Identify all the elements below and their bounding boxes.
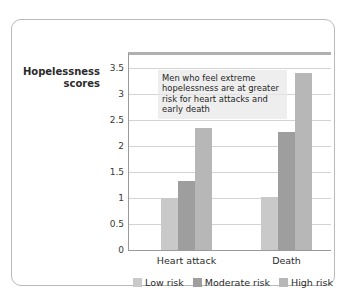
chart-annotation: Men who feel extreme hopelessness are at… (158, 70, 287, 119)
legend-label: Moderate risk (205, 277, 270, 288)
y-axis-tick-label: 0.5 (110, 219, 124, 229)
legend-swatch-icon (279, 278, 288, 287)
bar[interactable] (278, 132, 295, 250)
bar[interactable] (295, 73, 312, 250)
legend-swatch-icon (133, 278, 142, 287)
legend-item[interactable]: Low risk (133, 277, 184, 288)
bar[interactable] (195, 128, 212, 250)
bar[interactable] (261, 197, 278, 250)
bar[interactable] (178, 181, 195, 250)
legend-label: High risk (291, 277, 333, 288)
y-axis-tick-label: 3 (118, 89, 124, 99)
legend-swatch-icon (193, 278, 202, 287)
plot-wrapper: 00.511.522.533.5 Heart attackDeath Men w… (12, 20, 334, 285)
y-axis-tick-label: 0 (118, 245, 124, 255)
figure-card: Hopelessness scores 00.511.522.533.5 Hea… (11, 19, 335, 286)
y-axis-tick-label: 1.5 (110, 167, 124, 177)
y-axis-tick-label: 2.5 (110, 115, 124, 125)
legend-item[interactable]: High risk (279, 277, 333, 288)
chart-legend: Low riskModerate riskHigh risk (128, 277, 338, 288)
y-axis-tick-label: 1 (118, 193, 124, 203)
y-axis-tick-label: 3.5 (110, 63, 124, 73)
legend-label: Low risk (145, 277, 184, 288)
y-axis-tick-label: 2 (118, 141, 124, 151)
legend-item[interactable]: Moderate risk (193, 277, 270, 288)
bar[interactable] (161, 198, 178, 250)
x-axis-tick-label: Death (227, 255, 347, 266)
